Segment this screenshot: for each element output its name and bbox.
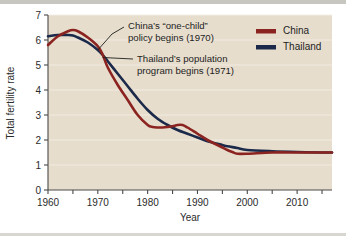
y-tick-label: 0 — [35, 185, 41, 196]
y-tick-label: 7 — [35, 10, 41, 21]
y-tick-label: 5 — [35, 60, 41, 71]
x-axis-title: Year — [180, 212, 201, 223]
x-tick-label: 1990 — [186, 197, 209, 208]
annotation-china-policy: China’s “one-child” policy begins (1970) — [128, 20, 214, 43]
x-tick-label: 1960 — [37, 197, 60, 208]
legend-label-thailand[interactable]: Thailand — [283, 41, 321, 52]
x-axis-ticks: 196019701980199020002010 — [37, 190, 322, 208]
x-tick-label: 2000 — [236, 197, 259, 208]
figure-container: 01234567 196019701980199020002010 Total … — [0, 0, 346, 236]
y-tick-label: 4 — [35, 85, 41, 96]
legend-label-china[interactable]: China — [283, 25, 310, 36]
annotation-china-policy-line2: policy begins (1970) — [128, 32, 214, 43]
fertility-rate-line-chart: 01234567 196019701980199020002010 Total … — [0, 0, 346, 236]
x-tick-label: 1970 — [87, 197, 110, 208]
y-tick-label: 3 — [35, 110, 41, 121]
legend-swatch-thailand — [256, 45, 276, 50]
y-tick-label: 1 — [35, 160, 41, 171]
y-tick-label: 2 — [35, 135, 41, 146]
x-tick-label: 1980 — [137, 197, 160, 208]
annotation-thailand-program: Thailand’s population program begins (19… — [137, 53, 234, 76]
y-tick-label: 6 — [35, 35, 41, 46]
annotation-china-policy-line1: China’s “one-child” — [128, 20, 208, 31]
y-axis-ticks: 01234567 — [35, 10, 48, 196]
legend-swatch-china — [256, 29, 276, 34]
y-axis-title: Total fertility rate — [5, 66, 16, 139]
annotation-thailand-program-line2: program begins (1971) — [137, 65, 234, 76]
annotation-thailand-program-line1: Thailand’s population — [137, 53, 228, 64]
x-tick-label: 2010 — [286, 197, 309, 208]
